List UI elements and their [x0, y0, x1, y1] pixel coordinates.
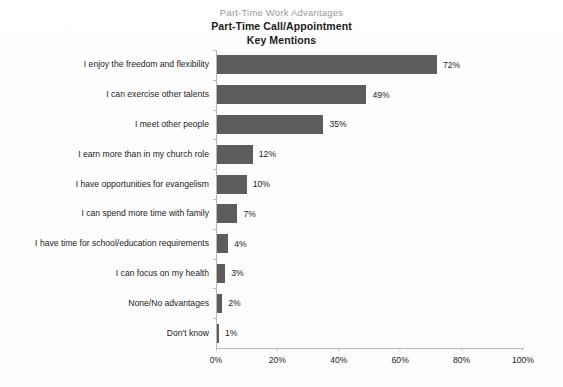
- x-tick-label: 20%: [269, 355, 286, 365]
- bar-row: I have opportunities for evangelism10%: [216, 169, 523, 199]
- bar-value-label: 2%: [228, 298, 240, 308]
- x-axis-line: [216, 348, 524, 349]
- bar-rows: I enjoy the freedom and flexibility72%I …: [216, 50, 523, 348]
- x-tick-label: 100%: [512, 355, 534, 365]
- category-label: I can focus on my health: [4, 268, 209, 279]
- x-tick-label: 60%: [392, 355, 409, 365]
- bar-row: I meet other people35%: [216, 110, 523, 140]
- plot-area: I enjoy the freedom and flexibility72%I …: [216, 50, 523, 348]
- bar: [216, 115, 323, 134]
- category-label: None/No advantages: [4, 298, 209, 309]
- x-axis-ticks: 0%20%40%60%80%100%: [216, 348, 523, 372]
- category-label: I meet other people: [4, 119, 209, 130]
- bar-value-label: 4%: [234, 239, 246, 249]
- category-label: Don't know: [4, 328, 209, 339]
- category-label: I enjoy the freedom and flexibility: [4, 59, 209, 70]
- x-tick-label: 0%: [210, 355, 222, 365]
- bar-value-label: 12%: [259, 149, 276, 159]
- y-axis-line: [216, 50, 217, 349]
- bar-value-label: 1%: [225, 328, 237, 338]
- bar-value-label: 10%: [253, 179, 270, 189]
- x-axis-tick: 80%: [453, 348, 470, 365]
- bar: [216, 145, 253, 164]
- bar: [216, 234, 228, 253]
- category-label: I can exercise other talents: [4, 89, 209, 100]
- bar-row: I earn more than in my church role12%: [216, 139, 523, 169]
- bar: [216, 264, 225, 283]
- x-axis-tick: 40%: [330, 348, 347, 365]
- bar-chart: Part-Time Work Advantages Part-Time Call…: [0, 0, 563, 387]
- x-axis-tick: 20%: [269, 348, 286, 365]
- bar-value-label: 49%: [372, 90, 389, 100]
- chart-supertitle: Part-Time Work Advantages: [0, 6, 563, 19]
- chart-title: Part-Time Call/Appointment: [0, 19, 563, 33]
- category-label: I can spend more time with family: [4, 208, 209, 219]
- bar: [216, 175, 247, 194]
- bar-row: I can spend more time with family7%: [216, 199, 523, 229]
- bar: [216, 55, 437, 74]
- bar-row: None/No advantages2%: [216, 288, 523, 318]
- bar: [216, 85, 366, 104]
- bar-value-label: 35%: [329, 119, 346, 129]
- chart-title-block: Part-Time Work Advantages Part-Time Call…: [0, 6, 563, 47]
- x-tick-label: 40%: [330, 355, 347, 365]
- bar-row: I enjoy the freedom and flexibility72%: [216, 50, 523, 80]
- x-tick-label: 80%: [453, 355, 470, 365]
- bar-row: I can exercise other talents49%: [216, 80, 523, 110]
- bar-row: I have time for school/education require…: [216, 229, 523, 259]
- category-label: I have opportunities for evangelism: [4, 179, 209, 190]
- category-label: I earn more than in my church role: [4, 149, 209, 160]
- bar-value-label: 72%: [443, 60, 460, 70]
- bar-value-label: 3%: [231, 268, 243, 278]
- category-label: I have time for school/education require…: [4, 238, 209, 249]
- chart-subtitle: Key Mentions: [0, 33, 563, 47]
- x-axis-tick: 0%: [210, 348, 222, 365]
- x-axis-tick: 60%: [392, 348, 409, 365]
- bar-value-label: 7%: [243, 209, 255, 219]
- bar-row: I can focus on my health3%: [216, 259, 523, 289]
- bar: [216, 204, 237, 223]
- bar-row: Don't know1%: [216, 318, 523, 348]
- x-axis-tick: 100%: [512, 348, 534, 365]
